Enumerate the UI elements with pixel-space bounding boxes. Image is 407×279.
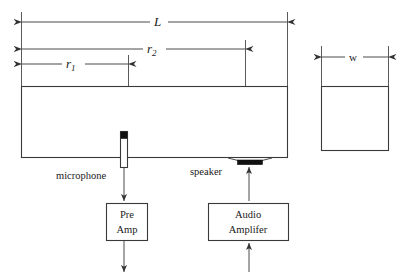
tube-end-view-rect [322,87,389,151]
microphone-label: microphone [56,170,106,181]
dimension-r2: r2 [22,41,245,58]
pre-amp-label-line2: Amp [117,224,138,235]
audio-amplifier-label-line1: Audio [235,209,261,220]
microphone-assembly [121,132,128,168]
dimension-r2-label: r2 [147,41,157,58]
dimension-w: w [322,51,388,63]
dimension-w-label: w [349,51,357,63]
speaker-magnet-bar [238,160,263,165]
microphone-tip [121,132,127,139]
speaker-assembly [228,158,272,165]
pre-amp-label-line1: Pre [120,209,134,220]
dimension-r1: r1 [22,56,128,73]
dimension-r1-label: r1 [66,56,76,73]
schematic-diagram: L r2 r1 w microphone [0,0,407,279]
speaker-label: speaker [190,166,223,177]
audio-amplifier-label-line2: Amplifer [229,224,268,235]
dimension-L-label: L [153,14,161,29]
audio-amplifier-block: Audio Amplifer [209,204,289,241]
dimension-L: L [22,14,287,29]
tube-top-view-rect [22,87,288,158]
pre-amp-block: Pre Amp [107,204,148,241]
figure-canvas: L r2 r1 w microphone [0,0,407,279]
